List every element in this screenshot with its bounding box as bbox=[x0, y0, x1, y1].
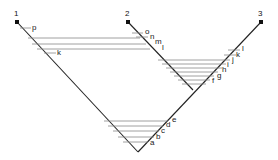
node-3 bbox=[259, 20, 263, 24]
tick-label-i: i bbox=[227, 60, 229, 69]
tick-label-c: c bbox=[161, 126, 165, 135]
tick-label-e: e bbox=[172, 115, 177, 124]
tick-label-m: m bbox=[155, 37, 162, 46]
tick-label-l-mid: l bbox=[162, 43, 164, 52]
tick-label-b: b bbox=[156, 132, 161, 141]
node-1 bbox=[15, 20, 19, 24]
diagram-canvas: 1 2 3 p k o n m l l k j bbox=[0, 0, 278, 160]
tick-label-f: f bbox=[212, 76, 215, 85]
node-2-label: 2 bbox=[125, 9, 130, 18]
tick-label-j: j bbox=[231, 55, 234, 64]
line-1-to-bottom bbox=[17, 22, 138, 152]
fold-diagram: 1 2 3 p k o n m l l k j bbox=[0, 0, 278, 160]
node-1-label: 1 bbox=[14, 9, 19, 18]
tick-label-d: d bbox=[166, 120, 170, 129]
tick-label-a: a bbox=[150, 138, 155, 147]
tick-label-h: h bbox=[222, 65, 226, 74]
upper-hatch-lines bbox=[20, 28, 150, 53]
tick-label-k-right: k bbox=[236, 50, 241, 59]
tick-label-l-right: l bbox=[242, 44, 244, 53]
node-2 bbox=[126, 20, 130, 24]
tick-label-p: p bbox=[32, 23, 37, 32]
tick-label-n: n bbox=[150, 32, 154, 41]
node-3-label: 3 bbox=[258, 9, 263, 18]
tick-label-g: g bbox=[217, 71, 221, 80]
